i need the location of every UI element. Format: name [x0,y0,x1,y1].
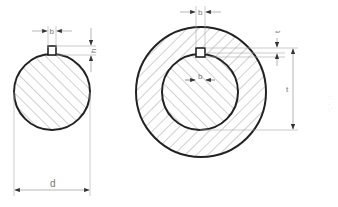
shaft-section [14,46,90,130]
shaft-key-width-dimension: b [32,26,72,48]
shaft-b-label: b [50,27,55,36]
hub-t-label: t [286,85,289,94]
hub-key [196,48,205,57]
shaft-circle [14,54,90,130]
hub-inner-shaft-circle [162,54,238,130]
shaft-key [48,46,56,55]
keyway-diagram: b h d b b [0,0,338,207]
shaft-d-label: d [50,178,56,189]
hub-section [136,27,266,157]
watermark: ·: ·: ·: [326,95,333,112]
hub-t1-label: t [273,30,282,33]
hub-b-inner-label: b [198,72,203,81]
shaft-h-label: h [89,49,98,53]
hub-b-top-label: b [198,8,203,17]
